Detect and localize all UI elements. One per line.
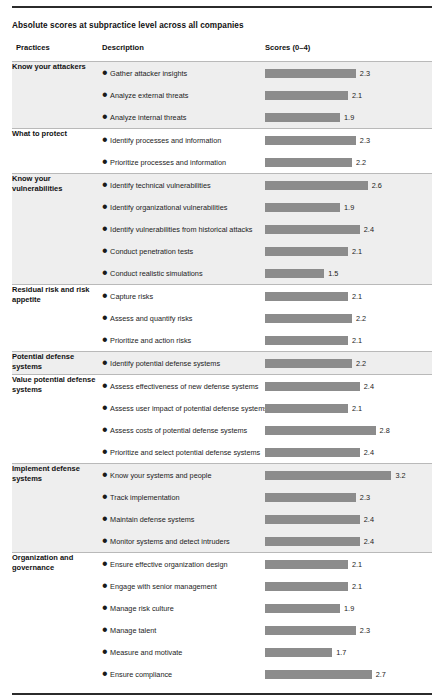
practice-label: Know your attackers (12, 62, 100, 72)
table-row: What to protect•Identify processes and i… (12, 129, 432, 152)
table-row: Potential defense systems•Identify poten… (12, 352, 432, 375)
subpractice-label: Conduct realistic simulations (110, 269, 202, 278)
practice-cell: Know your vulnerabilities (12, 174, 100, 285)
table-row: Know your vulnerabilities•Identify techn… (12, 174, 432, 197)
score-bar (265, 292, 348, 301)
bullet-icon: • (102, 131, 108, 149)
subpractice-label: Assess effectiveness of new defense syst… (110, 382, 258, 391)
score-value: 2.4 (364, 382, 374, 391)
practice-label: Residual risk and risk appetite (12, 285, 100, 304)
score-cell: 2.1 (262, 285, 432, 308)
practice-label: Know your vulnerabilities (12, 174, 100, 193)
description-cell: •Gather attacker insights (100, 62, 262, 85)
description-cell: •Identify organizational vulnerabilities (100, 196, 262, 218)
score-bar (265, 626, 356, 635)
score-value: 2.1 (352, 91, 362, 100)
score-cell: 2.1 (262, 329, 432, 352)
table-row: Implement defense systems•Know your syst… (12, 464, 432, 487)
description-cell: •Assess costs of potential defense syste… (100, 419, 262, 441)
description-cell: •Track implementation (100, 486, 262, 508)
practice-label: Organization and governance (12, 553, 100, 572)
bullet-icon: • (102, 488, 108, 506)
description-cell: •Assess user impact of potential defense… (100, 397, 262, 419)
subpractice-label: Monitor systems and detect intruders (110, 537, 230, 546)
table-header: Practices Description Scores (0–4) (12, 43, 432, 62)
exhibit-container: Absolute scores at subpractice level acr… (0, 6, 444, 560)
exhibit-title: Absolute scores at subpractice level acr… (12, 20, 432, 31)
column-header-practices: Practices (12, 43, 100, 62)
score-cell: 2.4 (262, 530, 432, 553)
score-value: 2.8 (380, 426, 390, 435)
subpractice-label: Gather attacker insights (110, 69, 187, 78)
subpractice-label: Ensure compliance (110, 670, 172, 679)
subpractice-label: Measure and motivate (110, 648, 182, 657)
score-value: 2.4 (364, 448, 374, 457)
bullet-icon: • (102, 421, 108, 439)
bullet-icon: • (102, 599, 108, 617)
bullet-icon: • (102, 176, 108, 194)
score-cell: 2.7 (262, 663, 432, 685)
description-cell: •Measure and motivate (100, 641, 262, 663)
score-value: 2.3 (360, 626, 370, 635)
bullet-icon: • (102, 532, 108, 550)
practice-label: Implement defense systems (12, 464, 100, 483)
subpractice-label: Engage with senior management (110, 582, 217, 591)
score-cell: 2.6 (262, 174, 432, 197)
bullet-icon: • (102, 555, 108, 573)
bullet-icon: • (102, 264, 108, 282)
score-value: 2.3 (360, 69, 370, 78)
subpractice-label: Identify processes and information (110, 136, 221, 145)
description-cell: •Assess effectiveness of new defense sys… (100, 375, 262, 398)
description-cell: •Identify technical vulnerabilities (100, 174, 262, 197)
score-bar (265, 269, 324, 278)
practice-group: Organization and governance•Ensure effec… (12, 553, 432, 686)
bullet-icon: • (102, 309, 108, 327)
subpractice-label: Identify organizational vulnerabilities (110, 203, 227, 212)
bullet-icon: • (102, 466, 108, 484)
score-bar (265, 181, 368, 190)
subpractice-label: Ensure effective organization design (110, 560, 228, 569)
scores-table: Practices Description Scores (0–4) Know … (12, 43, 432, 685)
practice-label: What to protect (12, 129, 100, 139)
score-bar (265, 314, 352, 323)
score-bar (265, 69, 356, 78)
description-cell: •Capture risks (100, 285, 262, 308)
score-bar (265, 648, 332, 657)
header-row: Practices Description Scores (0–4) (12, 43, 432, 62)
score-cell: 2.1 (262, 575, 432, 597)
table-row: Know your attackers•Gather attacker insi… (12, 62, 432, 85)
score-bar (265, 515, 360, 524)
subpractice-label: Assess and quantify risks (110, 314, 192, 323)
subpractice-label: Identify potential defense systems (110, 359, 220, 368)
description-cell: •Know your systems and people (100, 464, 262, 487)
description-cell: •Analyze internal threats (100, 106, 262, 129)
description-cell: •Prioritize and select potential defense… (100, 441, 262, 464)
table-row: Value potential defense systems•Assess e… (12, 375, 432, 398)
score-cell: 2.3 (262, 62, 432, 85)
score-bar (265, 604, 340, 613)
bullet-icon: • (102, 331, 108, 349)
score-bar (265, 359, 352, 368)
bullet-icon: • (102, 64, 108, 82)
table-row: Organization and governance•Ensure effec… (12, 553, 432, 576)
bullet-icon: • (102, 242, 108, 260)
score-cell: 2.2 (262, 151, 432, 174)
score-bar (265, 582, 348, 591)
score-bar (265, 336, 348, 345)
score-cell: 2.1 (262, 397, 432, 419)
practice-group: Potential defense systems•Identify poten… (12, 352, 432, 375)
score-bar (265, 158, 352, 167)
subpractice-label: Prioritize and action risks (110, 336, 191, 345)
practice-group: Residual risk and risk appetite•Capture … (12, 285, 432, 352)
score-bar (265, 493, 356, 502)
score-cell: 2.4 (262, 441, 432, 464)
practice-cell: Organization and governance (12, 553, 100, 686)
score-value: 3.2 (395, 471, 405, 480)
practice-cell: Residual risk and risk appetite (12, 285, 100, 352)
subpractice-label: Identify vulnerabilities from historical… (110, 225, 252, 234)
description-cell: •Assess and quantify risks (100, 307, 262, 329)
bullet-icon: • (102, 665, 108, 683)
bullet-icon: • (102, 220, 108, 238)
description-cell: •Prioritize processes and information (100, 151, 262, 174)
score-cell: 2.1 (262, 84, 432, 106)
